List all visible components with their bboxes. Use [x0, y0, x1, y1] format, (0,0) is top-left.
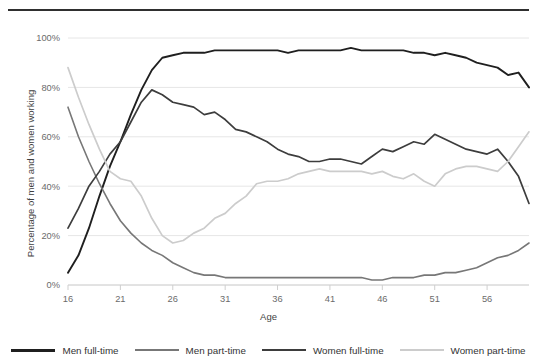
legend-swatch-women-full-time [262, 349, 306, 351]
legend-swatch-men-full-time [11, 349, 55, 352]
x-tick-label: 26 [168, 294, 178, 304]
x-tick-label: 16 [63, 294, 73, 304]
legend-item-women-full-time[interactable]: Women full-time [262, 345, 384, 356]
legend-item-men-part-time[interactable]: Men part-time [135, 345, 246, 356]
legend-swatch-women-part-time [400, 349, 444, 351]
series-line-women-part-time [68, 68, 529, 243]
legend-swatch-men-part-time [135, 349, 179, 351]
x-tick-label: 31 [220, 294, 230, 304]
x-tick-label: 56 [482, 294, 492, 304]
x-tick-label: 21 [115, 294, 125, 304]
plot-area-wrapper: 0%20%40%60%80%100%162126313641465156 Per… [0, 18, 537, 318]
legend-item-men-full-time[interactable]: Men full-time [11, 345, 118, 356]
chart-figure: 0%20%40%60%80%100%162126313641465156 Per… [0, 0, 537, 364]
y-tick-label: 80% [41, 83, 60, 93]
line-chart-svg: 0%20%40%60%80%100%162126313641465156 [0, 18, 537, 318]
figure-top-rule [8, 9, 529, 11]
y-tick-label: 60% [41, 132, 60, 142]
x-axis-title: Age [0, 311, 537, 322]
legend-label-women-part-time: Women part-time [451, 345, 526, 356]
series-line-men-part-time [68, 107, 529, 280]
legend-item-women-part-time[interactable]: Women part-time [400, 345, 526, 356]
chart-legend: Men full-time Men part-time Women full-t… [0, 341, 537, 359]
x-tick-label: 46 [377, 294, 387, 304]
legend-label-men-part-time: Men part-time [186, 345, 246, 356]
x-tick-label: 36 [272, 294, 282, 304]
legend-label-women-full-time: Women full-time [313, 345, 384, 356]
legend-label-men-full-time: Men full-time [62, 345, 118, 356]
y-tick-label: 40% [41, 182, 60, 192]
y-tick-label: 100% [36, 33, 60, 43]
series-line-women-full-time [68, 90, 529, 228]
x-tick-label: 41 [325, 294, 335, 304]
y-axis-title: Percentage of men and women working [25, 74, 36, 274]
y-tick-label: 20% [41, 231, 60, 241]
y-tick-label: 0% [47, 280, 60, 290]
x-tick-label: 51 [430, 294, 440, 304]
